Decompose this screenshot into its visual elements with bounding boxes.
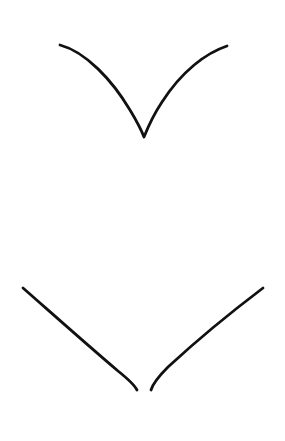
line-drawing-figure [0,0,285,441]
canvas-background [0,0,285,441]
drawing-canvas [0,0,285,441]
